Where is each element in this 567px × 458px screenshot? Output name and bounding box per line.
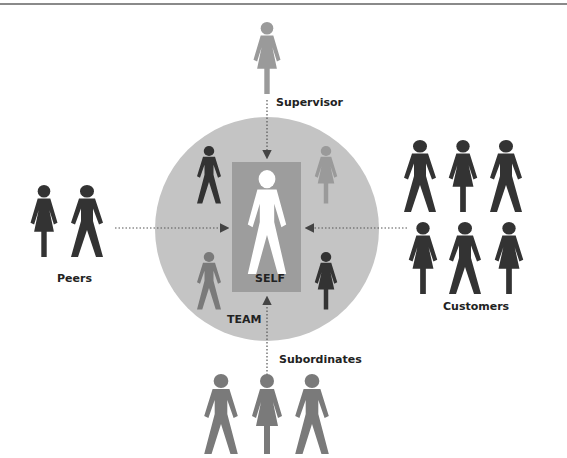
customer-male-icon <box>449 222 481 294</box>
subordinate-male-icon <box>295 374 329 454</box>
label-customers: Customers <box>443 300 509 313</box>
feedback-diagram <box>0 0 567 458</box>
customer-female-icon <box>409 222 438 294</box>
customer-male-icon <box>490 140 522 212</box>
subordinate-male-icon <box>204 374 238 454</box>
supervisor-figure-icon <box>254 22 281 94</box>
customer-female-icon <box>495 222 524 294</box>
customer-female-icon <box>449 140 478 212</box>
customer-male-icon <box>404 140 436 212</box>
peer-female-icon <box>31 185 58 257</box>
label-subordinates: Subordinates <box>279 353 362 366</box>
label-supervisor: Supervisor <box>276 96 343 109</box>
label-peers: Peers <box>57 272 92 285</box>
label-self: SELF <box>255 272 285 285</box>
label-team: TEAM <box>227 313 261 326</box>
peer-male-icon <box>71 185 103 257</box>
subordinate-female-icon <box>252 374 282 454</box>
